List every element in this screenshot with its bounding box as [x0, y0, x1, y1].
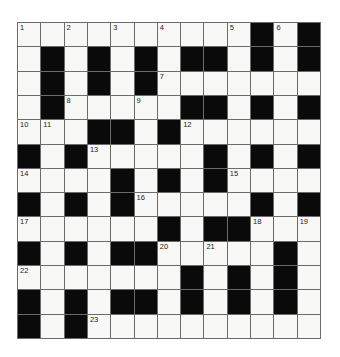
- crossword-cell[interactable]: [41, 242, 63, 265]
- crossword-cell[interactable]: [41, 169, 63, 192]
- crossword-cell[interactable]: [181, 145, 203, 168]
- crossword-cell[interactable]: [135, 120, 157, 143]
- crossword-cell[interactable]: [274, 145, 296, 168]
- crossword-cell[interactable]: [228, 96, 250, 119]
- crossword-cell[interactable]: [111, 47, 133, 70]
- crossword-cell[interactable]: 4: [158, 23, 180, 46]
- crossword-cell[interactable]: [158, 145, 180, 168]
- crossword-cell[interactable]: [181, 217, 203, 240]
- crossword-cell[interactable]: [88, 96, 110, 119]
- crossword-cell[interactable]: [251, 242, 273, 265]
- crossword-cell[interactable]: [274, 72, 296, 95]
- crossword-cell[interactable]: [111, 96, 133, 119]
- crossword-cell[interactable]: 12: [181, 120, 203, 143]
- crossword-cell[interactable]: 17: [18, 217, 40, 240]
- crossword-cell[interactable]: [298, 242, 320, 265]
- crossword-cell[interactable]: [204, 23, 226, 46]
- crossword-cell[interactable]: [41, 23, 63, 46]
- crossword-cell[interactable]: [298, 290, 320, 313]
- crossword-cell[interactable]: [18, 47, 40, 70]
- crossword-cell[interactable]: [111, 315, 133, 338]
- crossword-cell[interactable]: 1: [18, 23, 40, 46]
- crossword-cell[interactable]: [135, 315, 157, 338]
- crossword-cell[interactable]: [41, 315, 63, 338]
- crossword-cell[interactable]: [65, 169, 87, 192]
- crossword-cell[interactable]: [181, 193, 203, 216]
- crossword-cell[interactable]: [228, 242, 250, 265]
- crossword-cell[interactable]: 8: [65, 96, 87, 119]
- crossword-cell[interactable]: [41, 290, 63, 313]
- crossword-cell[interactable]: [18, 72, 40, 95]
- crossword-cell[interactable]: [181, 169, 203, 192]
- crossword-cell[interactable]: [18, 96, 40, 119]
- crossword-cell[interactable]: [111, 145, 133, 168]
- crossword-cell[interactable]: 19: [298, 217, 320, 240]
- crossword-cell[interactable]: [41, 193, 63, 216]
- crossword-cell[interactable]: [251, 72, 273, 95]
- crossword-cell[interactable]: 20: [158, 242, 180, 265]
- crossword-cell[interactable]: [274, 193, 296, 216]
- crossword-cell[interactable]: [135, 217, 157, 240]
- crossword-cell[interactable]: [204, 315, 226, 338]
- crossword-cell[interactable]: [65, 47, 87, 70]
- crossword-cell[interactable]: [274, 96, 296, 119]
- crossword-cell[interactable]: 9: [135, 96, 157, 119]
- crossword-cell[interactable]: [158, 96, 180, 119]
- crossword-cell[interactable]: [204, 120, 226, 143]
- crossword-cell[interactable]: [88, 217, 110, 240]
- crossword-cell[interactable]: [65, 266, 87, 289]
- crossword-cell[interactable]: [228, 72, 250, 95]
- crossword-cell[interactable]: [228, 193, 250, 216]
- crossword-cell[interactable]: [158, 315, 180, 338]
- crossword-cell[interactable]: [65, 72, 87, 95]
- crossword-cell[interactable]: [88, 290, 110, 313]
- crossword-cell[interactable]: 11: [41, 120, 63, 143]
- crossword-cell[interactable]: [251, 266, 273, 289]
- crossword-cell[interactable]: [251, 290, 273, 313]
- crossword-cell[interactable]: [228, 47, 250, 70]
- crossword-cell[interactable]: [135, 266, 157, 289]
- crossword-cell[interactable]: [65, 217, 87, 240]
- crossword-cell[interactable]: 23: [88, 315, 110, 338]
- crossword-cell[interactable]: [88, 266, 110, 289]
- crossword-cell[interactable]: [274, 169, 296, 192]
- crossword-cell[interactable]: [204, 266, 226, 289]
- crossword-cell[interactable]: [158, 47, 180, 70]
- crossword-cell[interactable]: [204, 290, 226, 313]
- crossword-cell[interactable]: [298, 315, 320, 338]
- crossword-cell[interactable]: 5: [228, 23, 250, 46]
- crossword-cell[interactable]: [181, 23, 203, 46]
- crossword-cell[interactable]: [88, 169, 110, 192]
- crossword-cell[interactable]: [228, 145, 250, 168]
- crossword-cell[interactable]: 21: [204, 242, 226, 265]
- crossword-cell[interactable]: 3: [111, 23, 133, 46]
- crossword-cell[interactable]: [41, 145, 63, 168]
- crossword-cell[interactable]: [181, 72, 203, 95]
- crossword-cell[interactable]: [88, 242, 110, 265]
- crossword-cell[interactable]: [158, 266, 180, 289]
- crossword-cell[interactable]: 15: [228, 169, 250, 192]
- crossword-cell[interactable]: [228, 315, 250, 338]
- crossword-cell[interactable]: [298, 169, 320, 192]
- crossword-cell[interactable]: [204, 72, 226, 95]
- crossword-cell[interactable]: [181, 242, 203, 265]
- crossword-cell[interactable]: [135, 169, 157, 192]
- crossword-cell[interactable]: [111, 72, 133, 95]
- crossword-cell[interactable]: [111, 217, 133, 240]
- crossword-cell[interactable]: 7: [158, 72, 180, 95]
- crossword-cell[interactable]: [251, 120, 273, 143]
- crossword-cell[interactable]: 14: [18, 169, 40, 192]
- crossword-cell[interactable]: [111, 266, 133, 289]
- crossword-cell[interactable]: [135, 23, 157, 46]
- crossword-cell[interactable]: 22: [18, 266, 40, 289]
- crossword-cell[interactable]: [274, 315, 296, 338]
- crossword-cell[interactable]: [204, 193, 226, 216]
- crossword-cell[interactable]: [298, 120, 320, 143]
- crossword-cell[interactable]: 10: [18, 120, 40, 143]
- crossword-cell[interactable]: [251, 315, 273, 338]
- crossword-cell[interactable]: [298, 266, 320, 289]
- crossword-cell[interactable]: [158, 193, 180, 216]
- crossword-cell[interactable]: [65, 120, 87, 143]
- crossword-cell[interactable]: [88, 193, 110, 216]
- crossword-cell[interactable]: [298, 72, 320, 95]
